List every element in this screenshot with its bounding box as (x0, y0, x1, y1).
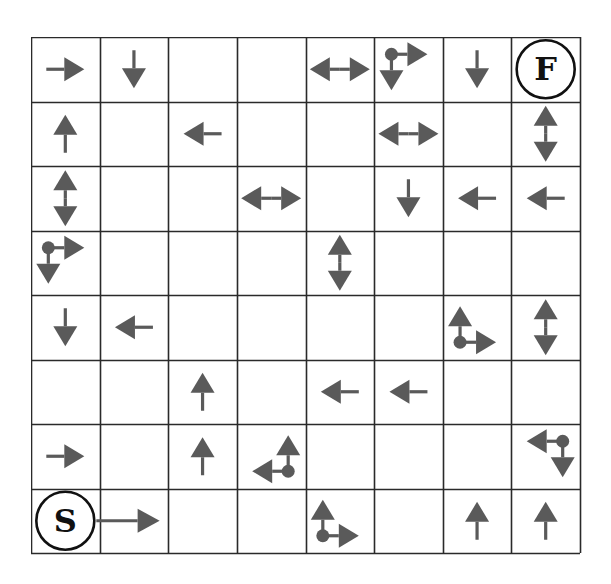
finish-label: F (534, 50, 557, 88)
pivot-corner-arrow-icon (379, 42, 427, 90)
down-arrow-icon (465, 50, 489, 88)
down-arrow-icon (53, 308, 77, 346)
pivot-corner-arrow-icon (252, 435, 300, 483)
up-arrow-icon (465, 502, 489, 540)
pivot-corner-arrow-icon (448, 306, 496, 354)
maze-grid: FS (31, 37, 580, 553)
up-arrow-icon (191, 437, 215, 475)
right-arrow-icon (46, 57, 84, 81)
up-down-arrow-icon (328, 235, 352, 291)
pivot-corner-arrow-icon (311, 500, 359, 548)
up-down-arrow-icon (534, 299, 558, 355)
down-arrow-icon (122, 50, 146, 88)
left-right-arrow-icon (310, 57, 370, 81)
left-right-arrow-icon (378, 122, 438, 146)
finish-marker: F (517, 40, 575, 98)
start-marker: S (36, 492, 159, 550)
right-arrow-icon (46, 444, 84, 468)
down-arrow-icon (396, 179, 420, 217)
left-arrow-icon (389, 380, 427, 404)
up-arrow-icon (534, 502, 558, 540)
up-down-arrow-icon (534, 106, 558, 162)
up-arrow-icon (191, 373, 215, 411)
grid-lines (31, 37, 581, 554)
start-label: S (54, 502, 77, 540)
left-right-arrow-icon (241, 186, 301, 210)
left-arrow-icon (458, 186, 496, 210)
left-arrow-icon (115, 315, 153, 339)
left-arrow-icon (321, 380, 359, 404)
pivot-corner-arrow-icon (527, 429, 575, 477)
left-arrow-icon (527, 186, 565, 210)
up-down-arrow-icon (53, 170, 77, 226)
maze-grid-drawing: FS (31, 37, 582, 555)
pivot-corner-arrow-icon (36, 236, 84, 284)
up-arrow-icon (53, 115, 77, 153)
left-arrow-icon (184, 122, 222, 146)
